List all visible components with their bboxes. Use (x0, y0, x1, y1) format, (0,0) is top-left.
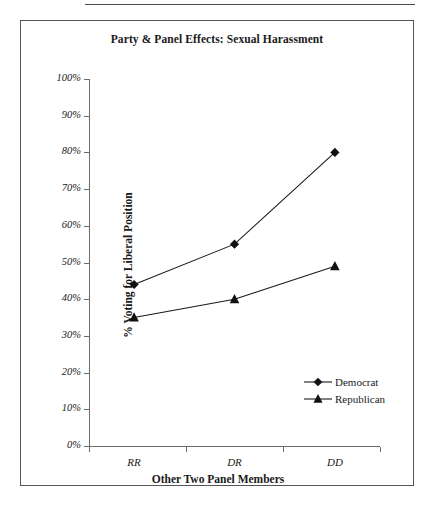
legend-item-democrat: Democrat (303, 373, 413, 390)
legend-item-republican: Republican (303, 390, 413, 407)
legend-label: Democrat (333, 376, 378, 388)
series-line (134, 266, 335, 317)
series-plot (21, 21, 415, 487)
top-horizontal-rule (85, 4, 415, 5)
series-democrat (130, 148, 340, 289)
legend-marker-triangle-icon (303, 392, 333, 406)
data-point-marker (330, 261, 340, 270)
chart-legend: DemocratRepublican (303, 373, 413, 407)
figure-frame: Party & Panel Effects: Sexual Harassment… (20, 20, 414, 486)
series-republican (129, 261, 339, 322)
data-point-marker (130, 280, 139, 289)
legend-label: Republican (333, 393, 385, 405)
series-line (134, 152, 335, 284)
legend-marker-diamond-icon (303, 375, 333, 389)
